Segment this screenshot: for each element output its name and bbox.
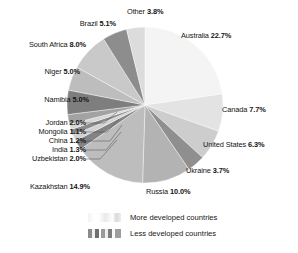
slice-label-ukraine-name: Ukraine — [186, 166, 211, 175]
slice-label-namibia-value: 5.0% — [73, 95, 89, 104]
slice-label-canada-name: Canada — [222, 105, 247, 114]
slice-label-jordan: Jordan 2.0% — [46, 119, 86, 128]
slice-label-china: China 1.2% — [49, 137, 86, 146]
slice-label-australia-name: Australia — [181, 31, 209, 40]
pie-slice-group — [67, 27, 223, 183]
legend-label-more-developed: More developed countries — [130, 213, 217, 222]
slice-label-russia-value: 10.0% — [170, 187, 190, 196]
slice-label-jordan-value: 2.0% — [70, 118, 86, 127]
slice-label-south-africa-value: 8.0% — [70, 40, 86, 49]
slice-label-other: Other 3.8% — [127, 8, 163, 17]
slice-label-other-name: Other — [127, 7, 145, 16]
chart-legend: More developed countries Less developed … — [88, 211, 248, 243]
slice-label-united-states: United States 6.3% — [203, 141, 265, 150]
slice-label-south-africa: South Africa 8.0% — [29, 41, 86, 50]
legend-swatch-more-developed-icon — [88, 213, 121, 222]
slice-label-russia-name: Russia — [146, 187, 168, 196]
slice-label-ukraine-value: 3.7% — [213, 166, 229, 175]
slice-label-niger-name: Niger — [44, 67, 61, 76]
slice-label-other-value: 3.8% — [147, 7, 163, 16]
slice-label-canada-value: 7.7% — [249, 105, 265, 114]
slice-label-canada: Canada 7.7% — [222, 106, 266, 115]
slice-label-uzbekistan-name: Uzbekistan — [32, 154, 68, 163]
slice-label-brazil-value: 5.1% — [100, 19, 116, 28]
legend-item-more-developed: More developed countries — [88, 211, 248, 224]
slice-label-niger-value: 5.0% — [64, 67, 80, 76]
slice-label-united-states-value: 6.3% — [248, 140, 264, 149]
slice-label-china-name: China — [49, 136, 68, 145]
slice-label-australia-value: 22.7% — [211, 31, 231, 40]
slice-label-ukraine: Ukraine 3.7% — [186, 167, 229, 176]
slice-label-india: India 1.3% — [52, 146, 86, 155]
slice-label-united-states-name: United States — [203, 140, 246, 149]
slice-label-china-value: 1.2% — [70, 136, 86, 145]
legend-label-less-developed: Less developed countries — [130, 229, 216, 238]
slice-label-kazakhstan: Kazakhstan 14.9% — [30, 183, 90, 192]
slice-label-brazil-name: Brazil — [80, 19, 98, 28]
legend-item-less-developed: Less developed countries — [88, 227, 248, 240]
slice-label-mongolia-name: Mongolia — [38, 127, 67, 136]
slice-label-india-name: India — [52, 145, 68, 154]
slice-label-namibia-name: Namibia — [44, 95, 70, 104]
slice-label-brazil: Brazil 5.1% — [80, 20, 116, 29]
slice-label-uzbekistan: Uzbekistan 2.0% — [32, 155, 86, 164]
slice-label-russia: Russia 10.0% — [146, 188, 190, 197]
slice-label-india-value: 1.3% — [70, 145, 86, 154]
slice-label-kazakhstan-name: Kazakhstan — [30, 182, 68, 191]
slice-label-niger: Niger 5.0% — [44, 68, 80, 77]
slice-label-mongolia: Mongolia 1.1% — [38, 128, 86, 137]
slice-label-uzbekistan-value: 2.0% — [70, 154, 86, 163]
slice-label-south-africa-name: South Africa — [29, 40, 68, 49]
slice-label-mongolia-value: 1.1% — [70, 127, 86, 136]
legend-swatch-less-developed-icon — [88, 229, 121, 238]
slice-label-kazakhstan-value: 14.9% — [70, 182, 90, 191]
slice-label-namibia: Namibia 5.0% — [44, 96, 89, 105]
pie-chart-figure: Australia 22.7% Canada 7.7% United State… — [0, 0, 298, 253]
slice-label-jordan-name: Jordan — [46, 118, 68, 127]
slice-label-australia: Australia 22.7% — [181, 32, 231, 41]
